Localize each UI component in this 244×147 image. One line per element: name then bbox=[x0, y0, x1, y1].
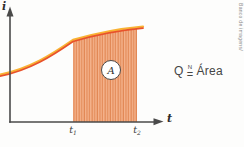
area-label-circle: A bbox=[101, 60, 121, 80]
tick-t2-subscript: 2 bbox=[137, 129, 141, 136]
area-label: A bbox=[107, 65, 114, 76]
formula-relation: N = bbox=[187, 64, 194, 78]
y-axis-label: i bbox=[2, 0, 6, 13]
tick-label-t1: t1 bbox=[64, 124, 82, 138]
formula-equals-sign: = bbox=[187, 70, 194, 78]
image-credit: Banco de imagens/ bbox=[238, 3, 244, 51]
tick-label-t2: t2 bbox=[128, 124, 146, 138]
tick-t1-subscript: 1 bbox=[73, 129, 77, 136]
figure: i t t1 t2 A Q N = Área Banco de imagens/ bbox=[0, 0, 244, 147]
x-axis-label: t bbox=[167, 112, 172, 125]
formula-rhs: Área bbox=[196, 64, 223, 78]
x-axis-arrowhead bbox=[154, 118, 164, 125]
formula-lhs: Q bbox=[174, 64, 184, 78]
formula: Q N = Área bbox=[174, 64, 223, 78]
y-axis-arrowhead bbox=[7, 7, 14, 17]
